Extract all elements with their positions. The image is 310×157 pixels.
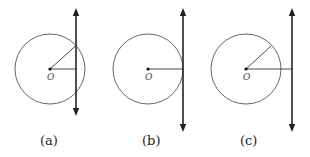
panel-caption: (a) — [40, 133, 58, 148]
circle-line-diagram: O (a) O (b) O (c) — [0, 0, 310, 157]
panel-b: O (b) — [113, 12, 183, 148]
center-point — [48, 67, 51, 70]
center-label: O — [243, 72, 251, 82]
radius-to-intersection — [50, 46, 76, 70]
center-label: O — [47, 72, 55, 82]
center-point — [146, 67, 149, 70]
center-point — [244, 67, 247, 70]
center-label: O — [145, 72, 153, 82]
panel-caption: (c) — [240, 133, 257, 148]
panel-c: O (c) — [211, 12, 292, 148]
radius — [246, 46, 271, 69]
panel-a: O (a) — [15, 12, 85, 148]
panel-caption: (b) — [142, 133, 160, 148]
